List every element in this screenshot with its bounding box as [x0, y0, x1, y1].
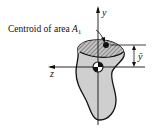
z-axis-label: z	[49, 68, 54, 79]
cross-section-diagram: y z ȳ Centroid of area A1	[0, 0, 155, 131]
centroid-caption: Centroid of area A1	[8, 24, 81, 35]
y-axis-arrow-icon	[96, 6, 100, 13]
dimension-label: ȳ	[137, 51, 143, 62]
y-axis-label: y	[101, 7, 107, 18]
dimension-arrow-bottom-icon	[132, 62, 136, 67]
overall-centroid-marker	[93, 62, 103, 72]
centroid-a1-marker	[103, 42, 109, 48]
dimension-arrow-top-icon	[132, 45, 136, 50]
